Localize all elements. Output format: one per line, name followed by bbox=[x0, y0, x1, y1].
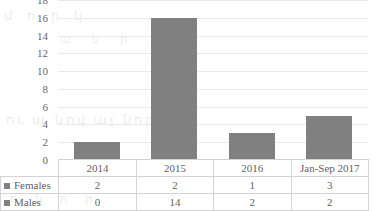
y-tick-8: 8 bbox=[43, 83, 49, 94]
data-table: 201420152016Jan-Sep 2017Females2213Males… bbox=[0, 159, 369, 211]
table-header-row: 201420152016Jan-Sep 2017 bbox=[1, 160, 369, 177]
legend-label: Females bbox=[14, 179, 51, 191]
grid-and-bars bbox=[58, 0, 368, 160]
plot-area: 181614121086420 bbox=[0, 0, 375, 160]
legend-label: Males bbox=[14, 196, 41, 208]
y-tick-14: 14 bbox=[37, 30, 48, 41]
y-tick-10: 10 bbox=[37, 66, 48, 77]
y-tick-2: 2 bbox=[43, 137, 49, 148]
table-cell: 2 bbox=[214, 194, 291, 211]
table-corner-cell bbox=[1, 160, 59, 177]
table-cell: 14 bbox=[136, 194, 213, 211]
y-tick-6: 6 bbox=[43, 101, 49, 112]
legend-swatch-icon bbox=[4, 183, 10, 189]
y-tick-18: 18 bbox=[37, 0, 48, 6]
y-axis-tick-labels: 181614121086420 bbox=[0, 0, 56, 160]
bar-cell-jan-sep-2017 bbox=[291, 0, 369, 160]
legend-item-females: Females bbox=[1, 177, 59, 194]
bar-jan-sep-2017 bbox=[306, 116, 352, 160]
table-cell: 3 bbox=[291, 177, 368, 194]
bar-2015 bbox=[151, 18, 197, 160]
y-tick-16: 16 bbox=[37, 12, 48, 23]
table-header-2015: 2015 bbox=[136, 160, 213, 177]
table-header-2014: 2014 bbox=[59, 160, 136, 177]
bar-2014 bbox=[74, 142, 120, 160]
bar-series bbox=[58, 0, 368, 160]
bar-cell-2016 bbox=[213, 0, 291, 160]
table-cell: 2 bbox=[136, 177, 213, 194]
table-cell: 2 bbox=[59, 177, 136, 194]
table-cell: 2 bbox=[291, 194, 368, 211]
bar-cell-2014 bbox=[58, 0, 136, 160]
table-row: Males01422 bbox=[1, 194, 369, 211]
bar-2016 bbox=[229, 133, 275, 160]
y-tick-12: 12 bbox=[37, 48, 48, 59]
legend-swatch-icon bbox=[4, 200, 10, 206]
bar-chart-figure: մ ո ր կ ա ն ի ու ա նով ալ նորդ ո ն ո ր 1… bbox=[0, 0, 375, 211]
bar-cell-2015 bbox=[136, 0, 214, 160]
table-row: Females2213 bbox=[1, 177, 369, 194]
y-tick-4: 4 bbox=[43, 119, 49, 130]
table-header-jan-sep-2017: Jan-Sep 2017 bbox=[291, 160, 368, 177]
table-header-2016: 2016 bbox=[214, 160, 291, 177]
legend-item-males: Males bbox=[1, 194, 59, 211]
table-cell: 0 bbox=[59, 194, 136, 211]
table-cell: 1 bbox=[214, 177, 291, 194]
